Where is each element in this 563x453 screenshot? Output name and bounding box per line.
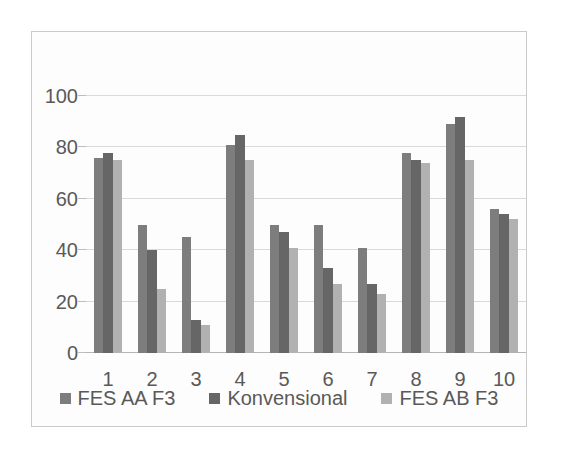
bar-groups bbox=[86, 96, 526, 353]
bar-konvensional bbox=[191, 320, 201, 353]
legend-item: Konvensional bbox=[209, 388, 347, 408]
bar-fes-aa-f3 bbox=[402, 153, 412, 353]
y-tick-label: 80 bbox=[56, 137, 78, 157]
bar-konvensional bbox=[103, 153, 113, 353]
bar-konvensional bbox=[235, 135, 245, 353]
bar-group bbox=[482, 96, 526, 353]
bar-fes-aa-f3 bbox=[314, 225, 324, 354]
bar-fes-aa-f3 bbox=[182, 237, 192, 353]
y-tick-mark bbox=[78, 198, 86, 199]
legend-marker-icon bbox=[381, 393, 392, 404]
legend-item: FES AB F3 bbox=[381, 388, 498, 408]
y-axis: 020406080100 bbox=[32, 96, 78, 353]
bar-konvensional bbox=[323, 268, 333, 353]
y-tick-label: 60 bbox=[56, 189, 78, 209]
bar-konvensional bbox=[279, 232, 289, 353]
bar-fes-ab-f3 bbox=[465, 160, 475, 353]
bar-fes-aa-f3 bbox=[490, 209, 500, 353]
bar-fes-ab-f3 bbox=[377, 294, 387, 353]
bar-fes-aa-f3 bbox=[94, 158, 104, 353]
bar-fes-aa-f3 bbox=[138, 225, 148, 354]
bar-group bbox=[306, 96, 350, 353]
bar-fes-ab-f3 bbox=[509, 219, 519, 353]
y-tick-mark bbox=[78, 352, 86, 353]
chart-frame: 020406080100 12345678910 FES AA F3Konven… bbox=[31, 31, 527, 427]
y-tick-mark bbox=[78, 249, 86, 250]
y-tick-mark bbox=[78, 301, 86, 302]
y-tick-mark bbox=[78, 146, 86, 147]
bar-fes-ab-f3 bbox=[421, 163, 431, 353]
y-tick-label: 0 bbox=[67, 343, 78, 363]
bar-group bbox=[86, 96, 130, 353]
bar-fes-ab-f3 bbox=[245, 160, 255, 353]
bar-fes-ab-f3 bbox=[333, 284, 343, 353]
plot-area bbox=[86, 96, 526, 353]
bar-group bbox=[218, 96, 262, 353]
bar-group bbox=[394, 96, 438, 353]
legend: FES AA F3KonvensionalFES AB F3 bbox=[32, 385, 526, 411]
bar-fes-ab-f3 bbox=[157, 289, 167, 353]
legend-marker-icon bbox=[60, 393, 71, 404]
legend-label: FES AA F3 bbox=[78, 388, 176, 408]
bar-group bbox=[262, 96, 306, 353]
legend-label: Konvensional bbox=[227, 388, 347, 408]
y-tick-label: 20 bbox=[56, 292, 78, 312]
bar-konvensional bbox=[147, 250, 157, 353]
y-tick-label: 40 bbox=[56, 240, 78, 260]
bar-konvensional bbox=[499, 214, 509, 353]
bar-fes-aa-f3 bbox=[446, 124, 456, 353]
bar-fes-aa-f3 bbox=[226, 145, 236, 353]
bar-group bbox=[174, 96, 218, 353]
bar-group bbox=[350, 96, 394, 353]
bar-group bbox=[438, 96, 482, 353]
legend-item: FES AA F3 bbox=[60, 388, 176, 408]
bar-fes-ab-f3 bbox=[201, 325, 211, 353]
bar-konvensional bbox=[367, 284, 377, 353]
bar-konvensional bbox=[411, 160, 421, 353]
chart-image: 020406080100 12345678910 FES AA F3Konven… bbox=[0, 0, 563, 453]
bar-fes-ab-f3 bbox=[289, 248, 299, 353]
legend-marker-icon bbox=[209, 393, 220, 404]
bar-fes-ab-f3 bbox=[113, 160, 123, 353]
y-tick-mark bbox=[78, 95, 86, 96]
legend-label: FES AB F3 bbox=[399, 388, 498, 408]
bar-konvensional bbox=[455, 117, 465, 353]
bar-fes-aa-f3 bbox=[358, 248, 368, 353]
bar-fes-aa-f3 bbox=[270, 225, 280, 354]
bar-group bbox=[130, 96, 174, 353]
y-tick-label: 100 bbox=[45, 86, 78, 106]
